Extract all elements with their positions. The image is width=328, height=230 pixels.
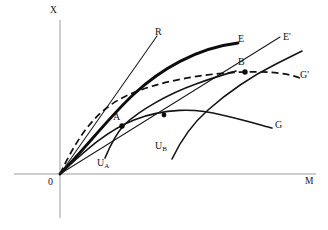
y-axis-label: X xyxy=(50,6,57,16)
curve-label-e: E xyxy=(238,34,244,44)
curve-label-r: R xyxy=(155,27,162,37)
point-ub-tangency-marker xyxy=(162,113,167,118)
point-b-marker xyxy=(242,69,247,74)
axes-group xyxy=(14,20,316,218)
curve-label-u-b-subscript: B xyxy=(162,145,167,153)
origin-label: 0 xyxy=(48,177,53,187)
curve-label-g-prime: G' xyxy=(300,70,309,80)
curve-label-u-b: UB xyxy=(155,141,167,151)
curve-r xyxy=(60,36,157,174)
curve-e-prime xyxy=(60,37,280,174)
point-a-marker xyxy=(119,123,124,128)
point-label-a: A xyxy=(113,112,120,122)
curve-label-u-a: UA xyxy=(97,158,109,168)
economics-diagram: X M 0 R E E' G' G A B UA UB xyxy=(0,0,328,230)
diagram-canvas xyxy=(0,0,328,230)
x-axis-label: M xyxy=(305,177,313,187)
curve-label-e-prime: E' xyxy=(283,32,291,42)
point-label-b: B xyxy=(238,57,245,67)
curve-u-a xyxy=(105,71,236,158)
curve-label-g: G xyxy=(275,120,282,130)
curve-u-b xyxy=(172,51,302,159)
curve-e xyxy=(60,43,238,174)
curve-label-u-a-subscript: A xyxy=(104,162,109,170)
